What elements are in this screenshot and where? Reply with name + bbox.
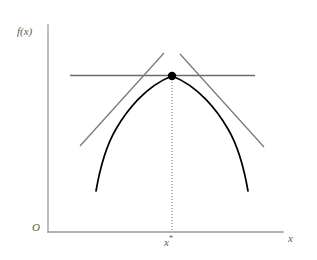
maximizer-tick-label: x* xyxy=(164,235,173,248)
origin-label: O xyxy=(32,222,40,233)
maximizer-label-superscript: * xyxy=(169,234,173,243)
figure-container: f(x) O x x* xyxy=(0,0,317,260)
x-axis-label: x xyxy=(288,233,293,244)
right-tangent-line xyxy=(180,54,264,147)
y-axis-label: f(x) xyxy=(17,26,32,37)
function-plot-svg xyxy=(0,0,317,260)
maximum-point-marker xyxy=(168,72,176,80)
left-tangent-line xyxy=(80,53,164,146)
